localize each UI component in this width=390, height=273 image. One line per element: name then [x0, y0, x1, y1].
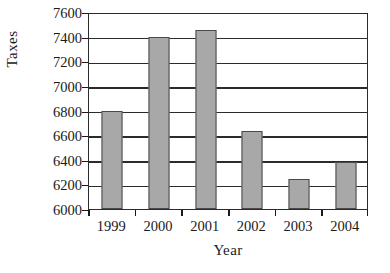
y-axis-tick-mark	[82, 161, 88, 162]
bar-slot	[322, 14, 369, 209]
y-axis-title: Taxes	[4, 4, 28, 94]
bar-slot	[136, 14, 183, 209]
y-axis-tick-mark	[82, 62, 88, 63]
y-axis-tick-mark	[82, 87, 88, 88]
x-axis-tick-mark	[275, 210, 277, 216]
x-axis-tick-mark	[321, 210, 323, 216]
bar-2001	[195, 30, 216, 209]
plot-area	[88, 13, 368, 210]
y-axis-tick-label: 7600	[36, 6, 82, 21]
y-axis-tick-mark	[82, 185, 88, 186]
x-axis-tick-label: 2002	[237, 218, 266, 235]
bar-slot	[182, 14, 229, 209]
x-axis-tick-label: 1999	[97, 218, 126, 235]
x-axis-tick-label: 2004	[330, 218, 359, 235]
x-axis-tick-marks	[88, 210, 368, 217]
x-axis-tick-label: 2003	[284, 218, 313, 235]
bar-slot	[229, 14, 276, 209]
bar-slot	[276, 14, 323, 209]
y-axis-tick-mark	[82, 112, 88, 113]
y-axis-tick-label: 6200	[36, 178, 82, 193]
bar-1999	[102, 111, 123, 210]
y-axis-tick-label: 6000	[36, 203, 82, 218]
y-axis-tick-label: 6600	[36, 129, 82, 144]
y-axis-tick-label: 7400	[36, 30, 82, 45]
bars-group	[89, 14, 367, 209]
x-axis-tick-mark	[228, 210, 230, 216]
bar-chart: Taxes 6000620064006600680070007200740076…	[0, 0, 390, 273]
y-axis-tick-mark	[82, 13, 88, 14]
y-axis-tick-mark	[82, 38, 88, 39]
x-axis-tick-mark	[181, 210, 183, 216]
x-axis-tick-labels: 199920002001200220032004	[88, 218, 368, 240]
x-axis-tick-mark	[88, 210, 90, 216]
bar-2000	[148, 37, 169, 209]
y-axis-tick-label: 7200	[36, 55, 82, 70]
bar-2004	[335, 162, 356, 209]
y-axis-tick-mark	[82, 136, 88, 137]
y-axis-tick-label: 7000	[36, 80, 82, 95]
bar-2003	[288, 179, 309, 209]
y-axis-tick-mark	[82, 210, 88, 211]
x-axis-tick-label: 2000	[144, 218, 173, 235]
y-axis-tick-labels: 600062006400660068007000720074007600	[36, 13, 82, 210]
x-axis-tick-label: 2001	[190, 218, 219, 235]
x-axis-tick-mark	[135, 210, 137, 216]
x-axis-title: Year	[88, 242, 368, 259]
y-axis-tick-label: 6800	[36, 104, 82, 119]
bar-2002	[242, 131, 263, 209]
bar-slot	[89, 14, 136, 209]
x-axis-tick-mark	[367, 210, 369, 216]
y-axis-tick-label: 6400	[36, 154, 82, 169]
